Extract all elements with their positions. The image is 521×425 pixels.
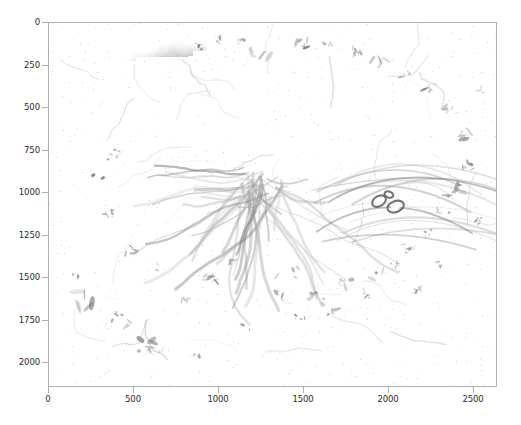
y-tick-label: 750 — [24, 146, 40, 155]
y-tick-mark — [42, 235, 48, 236]
y-tick-label: 500 — [24, 103, 40, 112]
y-tick-mark — [42, 320, 48, 321]
y-tick-label: 1750 — [19, 316, 40, 325]
x-tick-mark — [218, 387, 219, 393]
x-tick-label: 2500 — [462, 395, 483, 404]
tissue-scan-image — [49, 23, 497, 387]
x-tick-mark — [133, 387, 134, 393]
y-tick-label: 1000 — [19, 188, 40, 197]
y-tick-mark — [42, 362, 48, 363]
x-tick-label: 2000 — [377, 395, 398, 404]
y-tick-mark — [42, 65, 48, 66]
y-tick-mark — [42, 150, 48, 151]
y-tick-mark — [42, 22, 48, 23]
x-tick-mark — [48, 387, 49, 393]
y-tick-label: 1250 — [19, 231, 40, 240]
y-tick-label: 0 — [35, 18, 40, 27]
y-tick-label: 1500 — [19, 273, 40, 282]
x-tick-mark — [473, 387, 474, 393]
y-tick-label: 2000 — [19, 358, 40, 367]
y-tick-label: 250 — [24, 61, 40, 70]
x-tick-label: 500 — [125, 395, 141, 404]
y-tick-mark — [42, 192, 48, 193]
x-tick-label: 1000 — [207, 395, 228, 404]
x-tick-mark — [388, 387, 389, 393]
y-tick-mark — [42, 107, 48, 108]
x-tick-mark — [303, 387, 304, 393]
y-tick-mark — [42, 277, 48, 278]
plot-axes — [48, 22, 497, 387]
x-tick-label: 0 — [45, 395, 50, 404]
matplotlib-figure: 025050075010001250150017502000 050010001… — [0, 0, 521, 425]
x-tick-label: 1500 — [292, 395, 313, 404]
